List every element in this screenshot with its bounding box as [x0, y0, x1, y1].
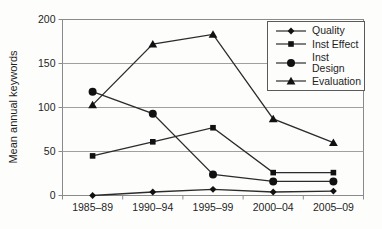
chart-figure: Mean annual keywords 0501001502001985–89…	[0, 0, 382, 229]
svg-text:1985–89: 1985–89	[72, 201, 113, 213]
svg-text:150: 150	[38, 57, 56, 69]
svg-text:0: 0	[50, 189, 56, 201]
svg-text:1990–94: 1990–94	[132, 201, 173, 213]
triangle-marker-icon	[275, 76, 307, 86]
legend-label-inst-design: Inst Design	[312, 52, 362, 73]
svg-text:50: 50	[44, 145, 56, 157]
legend-item-quality: Quality	[275, 25, 362, 36]
legend-label-quality: Quality	[312, 25, 345, 36]
legend-item-inst-effect: Inst Effect	[275, 39, 362, 50]
svg-text:1995–99: 1995–99	[193, 201, 234, 213]
svg-text:2000–04: 2000–04	[253, 201, 294, 213]
diamond-marker-icon	[275, 26, 307, 36]
legend-label-inst-effect: Inst Effect	[312, 39, 359, 50]
y-axis-title: Mean annual keywords	[7, 50, 19, 164]
svg-text:100: 100	[38, 101, 56, 113]
svg-text:200: 200	[38, 13, 56, 25]
legend-item-evaluation: Evaluation	[275, 76, 362, 87]
legend: Quality Inst Effect Inst Design Evaluati…	[267, 21, 365, 91]
legend-label-evaluation: Evaluation	[312, 76, 361, 87]
circle-marker-icon	[275, 58, 307, 68]
legend-item-inst-design: Inst Design	[275, 52, 362, 73]
square-marker-icon	[275, 39, 307, 49]
svg-text:2005–09: 2005–09	[313, 201, 354, 213]
